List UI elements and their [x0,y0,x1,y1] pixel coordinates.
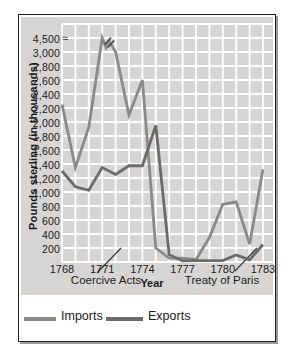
y-tick-label: 1,200 [18,173,60,185]
y-tick-label: 2,800 [18,61,60,73]
x-tick-label: 1771 [85,263,119,275]
y-tick-label: 4,500 [18,33,60,45]
y-axis-break-icon: ≈ [62,32,68,44]
annotation-treaty-of-paris: Treaty of Paris [167,274,277,286]
exports-line-swatch [106,317,143,321]
y-tick-label: 600 [18,215,60,227]
y-tick-label: 3,000 [18,47,60,59]
legend: Imports Exports [0,306,293,330]
x-tick-label: 1774 [125,263,159,275]
y-tick-label: 1,000 [18,187,60,199]
y-tick-label: 400 [18,229,60,241]
legend-label-exports: Exports [148,309,190,323]
legend-label-imports: Imports [61,309,103,323]
page: Pounds sterling (in thousands) ≈ Coerciv… [0,0,293,359]
y-tick-label: 1,800 [18,131,60,143]
x-tick-label: 1780 [206,263,240,275]
y-tick-label: 2,600 [18,75,60,87]
y-tick-label: 1,400 [18,159,60,171]
x-tick-label: 1768 [45,263,79,275]
y-tick-label: 800 [18,201,60,213]
x-tick-label: 1777 [166,263,200,275]
y-tick-label: 2,200 [18,103,60,115]
imports-line-swatch [24,317,56,321]
y-tick-label: 1,600 [18,145,60,157]
y-tick-label: 2,400 [18,89,60,101]
y-tick-label: 200 [18,243,60,255]
y-tick-label: 2,000 [18,117,60,129]
x-tick-label: 1783 [246,263,280,275]
